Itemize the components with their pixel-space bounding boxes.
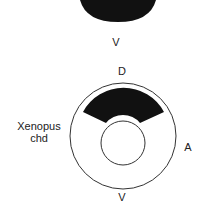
inner-circle — [101, 121, 145, 165]
chd-expression-sector — [83, 88, 164, 123]
gene-label: chd — [14, 132, 64, 144]
top-embryo-stain — [80, 0, 156, 22]
animal-label: A — [182, 141, 194, 153]
species-gene-label: Xenopus chd — [14, 120, 64, 144]
ventral-label: V — [116, 191, 128, 203]
dorsal-label: D — [116, 65, 128, 77]
diagram-canvas — [0, 0, 206, 205]
species-label: Xenopus — [14, 120, 64, 132]
top-ventral-label: V — [110, 36, 122, 48]
